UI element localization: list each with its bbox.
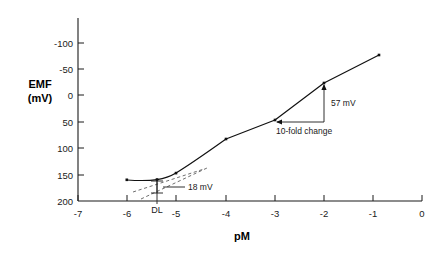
y-tick-marks xyxy=(78,43,84,175)
data-point-7 xyxy=(378,54,381,57)
detection-limit-label: DL xyxy=(151,205,163,215)
x-axis-title: pM xyxy=(234,230,250,242)
slope-triangle-arrowhead-left xyxy=(276,120,282,125)
y-tick-label-150: 150 xyxy=(57,170,73,181)
y-tick-label-neg100: -100 xyxy=(54,38,73,49)
x-tick-label-neg4: -4 xyxy=(222,208,230,219)
data-point-group xyxy=(126,54,381,181)
data-point-3 xyxy=(175,172,178,175)
data-point-6 xyxy=(323,82,326,85)
data-point-1 xyxy=(126,179,129,182)
y-axis-title-line1: EMF xyxy=(28,78,52,90)
y-tick-label-0: 0 xyxy=(68,90,73,101)
emf-response-curve xyxy=(127,55,379,180)
x-tick-labels: -7 -6 -5 -4 -3 -2 -1 0 xyxy=(74,208,425,219)
y-tick-label-50: 50 xyxy=(62,117,73,128)
y-axis-title-line2: (mV) xyxy=(28,92,53,104)
y-tick-label-neg50: -50 xyxy=(59,64,73,75)
offset-annotation-group: 18 mV xyxy=(151,181,213,193)
emf-calibration-plot: -100 -50 0 50 100 150 200 -7 -6 -5 -4 -3 xyxy=(0,0,443,262)
x-tick-label-neg2: -2 xyxy=(320,208,328,219)
x-tick-label-neg3: -3 xyxy=(271,208,279,219)
x-tick-marks xyxy=(78,195,422,201)
decade-change-label: 10-fold change xyxy=(276,126,333,136)
slope-value-label: 57 mV xyxy=(331,98,356,108)
x-tick-label-neg1: -1 xyxy=(369,208,377,219)
x-tick-label-neg5: -5 xyxy=(172,208,180,219)
x-tick-label-0: 0 xyxy=(419,208,424,219)
x-tick-label-neg6: -6 xyxy=(123,208,131,219)
chart-figure: -100 -50 0 50 100 150 200 -7 -6 -5 -4 -3 xyxy=(0,0,443,262)
data-point-4 xyxy=(225,138,228,141)
y-tick-label-100: 100 xyxy=(57,143,73,154)
y-tick-labels: -100 -50 0 50 100 150 200 xyxy=(54,38,73,208)
data-point-2 xyxy=(156,178,159,181)
offset-label: 18 mV xyxy=(188,182,213,192)
y-tick-label-200: 200 xyxy=(57,196,73,207)
data-point-5 xyxy=(274,119,277,122)
axes-group xyxy=(78,18,422,201)
x-tick-label-neg7: -7 xyxy=(74,208,82,219)
